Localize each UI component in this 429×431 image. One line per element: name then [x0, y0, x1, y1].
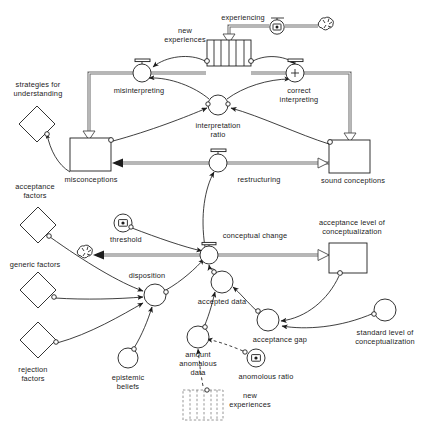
- label-accepted-data: accepted data: [198, 297, 247, 306]
- label-standard-level-line1: standard level of: [357, 328, 415, 337]
- link-anomalous-ratio-to-amount-anomalous: [207, 339, 243, 351]
- label-acceptance-factors-line1: acceptance: [15, 182, 54, 191]
- label-rejection-factors-line1: rejection: [18, 365, 47, 374]
- label-acceptance-gap: acceptance gap: [253, 335, 307, 344]
- link-conceptual-change-to-restructuring: [203, 172, 214, 247]
- label-new-experiences-line1: new: [178, 26, 193, 35]
- label-amount-anomalous-line3: data: [191, 368, 207, 377]
- label-rejection-factors-line2: factors: [21, 374, 44, 383]
- label-restructuring: restructuring: [237, 175, 280, 184]
- label-standard-level-line2: conceptualization: [355, 337, 415, 346]
- label-misinterpreting: misinterpreting: [114, 86, 165, 95]
- label-threshold: threshold: [110, 235, 142, 244]
- diagram-canvas: new experiences misconceptions sound con…: [0, 0, 429, 431]
- flow-correct-interpreting-core: [251, 73, 350, 135]
- label-interpretation-ratio-line1: interpretation: [195, 121, 240, 130]
- port-accepted-data: [212, 270, 217, 275]
- port-standard-level: [372, 312, 377, 317]
- aux-threshold[interactable]: [114, 214, 133, 232]
- link-misconceptions-to-interpretation-ratio: [113, 108, 207, 141]
- port-acceptance-level-bottom: [338, 271, 343, 276]
- flow-arrow-into-sink-cloud: [93, 251, 104, 260]
- cloud-conceptual-change-sink: [77, 245, 92, 258]
- cloud-experiencing-source: [318, 17, 333, 30]
- label-acceptance-factors-line2: factors: [23, 191, 46, 200]
- aux-standard-level-of-conceptualization[interactable]: [372, 299, 396, 321]
- diamond-strategies-for-understanding[interactable]: [19, 106, 55, 142]
- flow-arrow-into-acceptance-level: [318, 250, 329, 261]
- label-sound-conceptions: sound conceptions: [321, 176, 385, 185]
- port-interpretation-ratio-left: [206, 102, 210, 106]
- label-misconceptions: misconceptions: [64, 175, 117, 184]
- diamond-rejection-factors[interactable]: [20, 322, 58, 358]
- aux-anomalous-ratio[interactable]: [243, 349, 265, 367]
- system-dynamics-diagram: new experiences misconceptions sound con…: [0, 0, 429, 431]
- port-new-experiences-right: [249, 59, 254, 64]
- link-epistemic-beliefs-to-disposition: [134, 307, 152, 348]
- port-rejection-factors: [54, 340, 59, 345]
- label-correct-interpreting-line2: interpreting: [280, 95, 319, 104]
- port-epistemic-beliefs: [132, 347, 137, 352]
- flow-correct-interpreting-pipe: [251, 73, 350, 135]
- label-experiencing: experiencing: [221, 13, 265, 22]
- label-epistemic-beliefs-line2: beliefs: [117, 382, 140, 391]
- flow-misinterpreting-pipe: [89, 73, 206, 133]
- link-acceptance-factors-to-disposition: [50, 237, 143, 291]
- port-acceptance-gap: [256, 309, 261, 314]
- stock-new-experiences[interactable]: [205, 40, 254, 66]
- label-amount-anomalous-line2: anomalous: [179, 359, 217, 368]
- port-misconceptions-corner: [109, 138, 114, 143]
- valve-conceptual-change[interactable]: [200, 242, 218, 264]
- flow-misinterpreting-core: [89, 73, 206, 133]
- valve-experiencing[interactable]: [270, 18, 284, 34]
- stock-misconceptions[interactable]: [70, 138, 113, 171]
- label-anomalous-ratio: anomolous ratio: [239, 372, 294, 381]
- label-new-experiences-line2: experiences: [164, 35, 206, 44]
- aux-accepted-data[interactable]: [211, 270, 233, 293]
- valve-misinterpreting[interactable]: [133, 59, 151, 82]
- valve-correct-interpreting[interactable]: [286, 59, 304, 82]
- port-threshold: [129, 225, 133, 229]
- port-new-experiences-left: [205, 59, 210, 64]
- label-conceptual-change: conceptual change: [223, 231, 288, 240]
- flow-arrow-restructuring-into-misconceptions: [112, 159, 123, 168]
- label-ghost-new-experiences-line2: experiences: [229, 400, 271, 409]
- label-generic-factors: generic factors: [10, 260, 61, 269]
- stock-sound-conceptions[interactable]: [328, 140, 370, 173]
- aux-disposition[interactable]: [144, 284, 168, 306]
- link-acceptance-level-to-acceptance-gap: [281, 276, 339, 321]
- stock-new-experiences-ghost[interactable]: [183, 388, 223, 420]
- link-disposition-to-conceptual-change: [166, 259, 204, 290]
- stock-acceptance-level-of-conceptualization[interactable]: [329, 243, 367, 275]
- link-generic-factors-to-disposition: [55, 297, 143, 299]
- link-misconceptions-to-strategies: [47, 134, 70, 172]
- link-standard-level-to-acceptance-gap: [282, 313, 374, 328]
- label-correct-interpreting-line1: correct: [287, 86, 311, 95]
- label-ghost-new-experiences-line1: new: [243, 391, 258, 400]
- label-amount-anomalous-line1: amount: [185, 350, 211, 359]
- diamond-acceptance-factors[interactable]: [20, 207, 56, 243]
- diamond-generic-factors[interactable]: [20, 272, 56, 308]
- label-interpretation-ratio-line2: ratio: [210, 130, 225, 139]
- label-acceptance-level-line2: conceptualization: [322, 227, 382, 236]
- port-acceptance-factors: [47, 234, 52, 239]
- valve-restructuring[interactable]: [209, 149, 227, 172]
- aux-epistemic-beliefs[interactable]: [118, 347, 138, 368]
- port-generic-factors: [52, 295, 57, 300]
- flow-arrow-sound-conceptions-out: [318, 158, 328, 168]
- aux-interpretation-ratio[interactable]: [206, 95, 230, 115]
- port-ghost-new-experiences: [205, 388, 209, 392]
- port-disposition-right: [164, 290, 169, 295]
- aux-acceptance-gap[interactable]: [256, 309, 279, 331]
- port-anomalous-ratio: [243, 350, 247, 354]
- link-sound-conceptions-to-interpretation-ratio: [231, 108, 329, 144]
- label-epistemic-beliefs-line1: epistemic: [112, 373, 145, 382]
- label-disposition: disposition: [129, 271, 166, 280]
- label-strategies-line2: understanding: [14, 89, 63, 98]
- label-strategies-line1: strategies for: [16, 80, 61, 89]
- aux-amount-anomalous-data[interactable]: [187, 325, 209, 348]
- label-acceptance-level-line1: acceptance level of: [319, 218, 386, 227]
- port-interpretation-ratio-right: [226, 102, 230, 106]
- port-strategies: [45, 132, 50, 137]
- port-amount-anomalous-data: [203, 325, 208, 330]
